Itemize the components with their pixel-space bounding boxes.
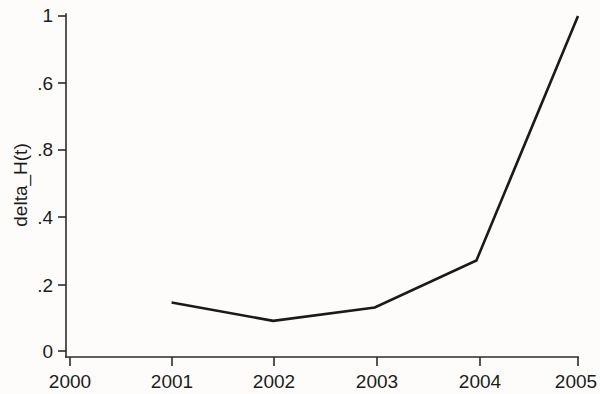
x-tick-label-2005: 2005 [555,371,597,392]
y-tick-label-1: 1 [42,5,53,26]
line-chart: delta_H(t) 1 .8 .6 .4 .2 0 2000 2001 200… [0,0,600,394]
x-tick-label-2001: 2001 [151,371,193,392]
data-series-line [172,16,578,321]
y-axis-title: delta_H(t) [10,143,32,226]
x-tick-label-2002: 2002 [253,371,295,392]
x-tick-label-2000: 2000 [49,371,91,392]
y-tick-label-0: 0 [42,341,53,362]
y-tick-label-0-4: .4 [37,207,53,228]
x-tick-label-2004: 2004 [459,371,502,392]
y-tick-label-0-8: .8 [37,139,53,160]
y-tick-label-0-6: .6 [37,73,53,94]
x-tick-label-2003: 2003 [356,371,398,392]
y-tick-label-0-2: .2 [37,275,53,296]
chart-figure: delta_H(t) 1 .8 .6 .4 .2 0 2000 2001 200… [0,0,600,394]
